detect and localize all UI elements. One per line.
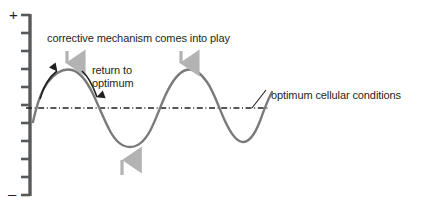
optimum-cellular-conditions-label: optimum cellular conditions [271, 89, 401, 102]
optimum-label-leader-line [252, 90, 266, 108]
axis-negative-sign: – [8, 186, 16, 201]
return-to-optimum-label: return to optimum [92, 64, 133, 90]
diagram-canvas: + – corrective mechanism comes into play… [0, 0, 426, 218]
corrective-mechanism-label: corrective mechanism comes into play [47, 32, 230, 45]
vertical-axis [21, 14, 30, 196]
axis-positive-sign: + [9, 7, 18, 22]
return-to-optimum-label-line1: return to [92, 64, 133, 77]
return-to-optimum-label-line2: optimum [92, 77, 133, 90]
